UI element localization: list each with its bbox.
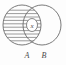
venn-diagram-canvas: x A B (0, 0, 66, 65)
venn-diagram-figure: x A B (0, 0, 66, 65)
set-a-label: A (24, 51, 30, 60)
set-b-label: B (42, 51, 47, 60)
